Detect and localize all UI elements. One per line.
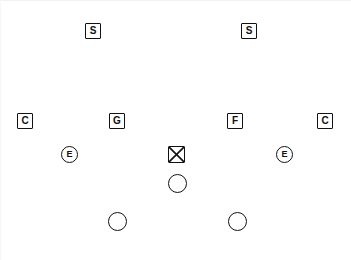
player-marker-halfback-right[interactable]: [228, 212, 247, 231]
player-marker-quarterback[interactable]: [168, 174, 187, 193]
player-marker-corner-right[interactable]: C: [317, 113, 333, 129]
player-marker-safety-left[interactable]: S: [85, 23, 101, 39]
player-marker-flanker-right[interactable]: F: [227, 113, 243, 129]
player-marker-safety-right[interactable]: S: [241, 23, 257, 39]
player-marker-label: F: [232, 116, 238, 126]
player-marker-label: C: [321, 116, 328, 126]
player-marker-label: S: [90, 26, 97, 36]
player-marker-end-left[interactable]: E: [61, 146, 78, 163]
player-marker-label: S: [246, 26, 253, 36]
player-marker-halfback-left[interactable]: [108, 212, 127, 231]
player-marker-center-ball[interactable]: [168, 146, 185, 163]
player-marker-guard-left[interactable]: G: [109, 113, 125, 129]
player-marker-label: E: [66, 150, 72, 159]
player-marker-end-right[interactable]: E: [276, 146, 293, 163]
formation-diagram-canvas: SSCGFCEE: [0, 0, 351, 260]
x-mark-icon: [169, 147, 184, 162]
player-marker-corner-left[interactable]: C: [17, 113, 33, 129]
player-marker-label: E: [281, 150, 287, 159]
player-marker-label: C: [21, 116, 28, 126]
player-marker-label: G: [113, 116, 121, 126]
